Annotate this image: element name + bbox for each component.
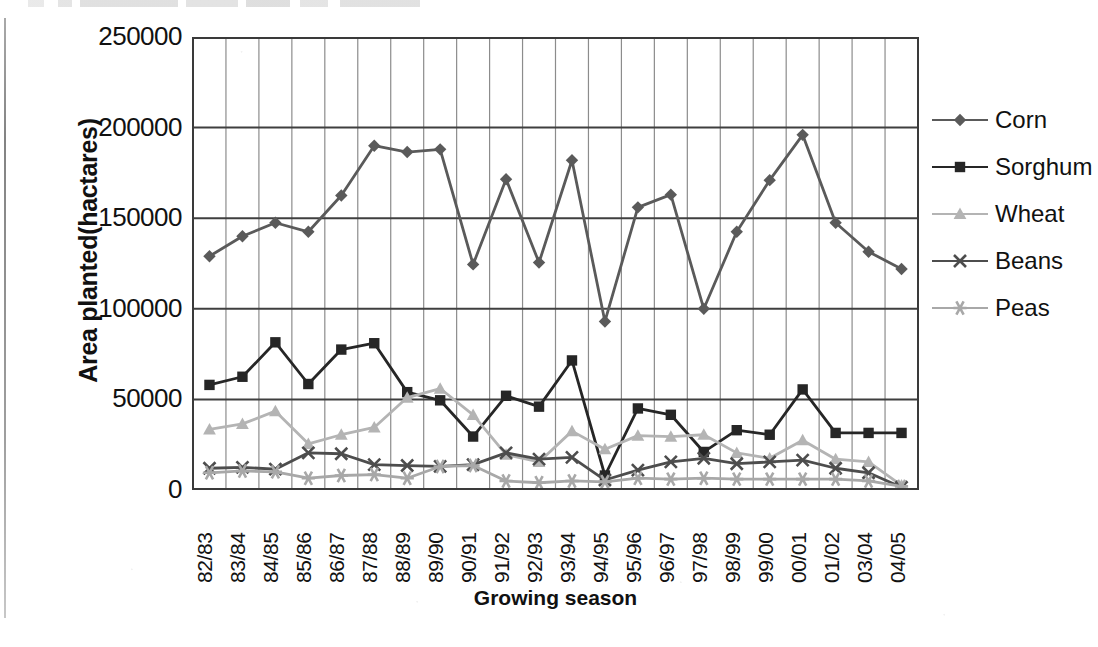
x-tick-label: 03/04 [853,532,877,583]
y-axis-tick-labels: 250000200000150000100000500000 [60,0,182,520]
legend-marker-diamond-icon [932,111,988,129]
line-chart: Area planted(hactares) 25000020000015000… [0,0,1098,647]
legend-item-wheat[interactable]: Wheat [932,190,1098,237]
data-point-square [955,161,965,171]
legend-label: Beans [995,247,1063,275]
x-tick-label: 89/90 [424,532,448,583]
x-tick-label: 01/02 [820,532,844,583]
x-axis-tick-labels: 82/8383/8484/8585/8686/8787/8888/8989/90… [192,497,919,583]
legend-item-sorghum[interactable]: Sorghum [932,143,1098,190]
x-tick-label: 83/84 [226,532,250,583]
x-tick-label: 86/87 [325,532,349,583]
x-tick-label: 98/99 [721,532,745,583]
legend-marker-cross-icon [932,252,988,270]
x-tick-label: 93/94 [556,532,580,583]
y-tick-label: 0 [70,476,182,502]
y-tick-label: 150000 [70,204,182,230]
x-tick-label: 99/00 [754,532,778,583]
y-tick-label: 50000 [70,385,182,411]
data-point-cross [954,255,966,267]
data-point-diamond [954,113,966,125]
y-tick-label: 100000 [70,295,182,321]
x-tick-label: 00/01 [787,532,811,583]
x-tick-label: 95/96 [622,532,646,583]
legend-marker-triangle-icon [932,205,988,223]
y-tick-label: 250000 [70,23,182,49]
legend-label: Peas [995,294,1050,322]
x-tick-label: 91/92 [490,532,514,583]
legend-marker-asterisk-icon [932,299,988,317]
x-tick-label: 97/98 [688,532,712,583]
x-tick-label: 84/85 [259,532,283,583]
legend-item-beans[interactable]: Beans [932,237,1098,284]
plot-area [192,37,919,490]
x-tick-label: 04/05 [886,532,910,583]
x-tick-label: 88/89 [391,532,415,583]
x-tick-label: 87/88 [358,532,382,583]
x-tick-label: 92/93 [523,532,547,583]
x-tick-label: 82/83 [193,532,217,583]
y-tick-label: 200000 [70,114,182,140]
plot-border [192,37,919,490]
legend-item-peas[interactable]: Peas [932,284,1098,331]
x-tick-label: 94/95 [589,532,613,583]
legend-marker-square-icon [932,158,988,176]
x-axis-title: Growing season [192,586,919,610]
data-point-asterisk [953,301,966,314]
legend-label: Corn [995,106,1047,134]
chart-legend: CornSorghumWheatBeansPeas [932,96,1098,331]
legend-label: Sorghum [995,153,1092,181]
x-tick-label: 85/86 [292,532,316,583]
data-point-triangle [954,207,967,219]
x-tick-label: 90/91 [457,532,481,583]
legend-item-corn[interactable]: Corn [932,96,1098,143]
x-tick-label: 96/97 [655,532,679,583]
legend-label: Wheat [995,200,1064,228]
